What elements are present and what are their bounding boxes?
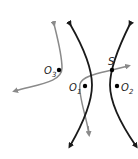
point-o2 <box>115 84 119 88</box>
label-o2: O2 <box>121 82 134 96</box>
gray-curve-arrow-down <box>88 126 89 134</box>
gray-curve-o3 <box>15 24 62 91</box>
diagram-svg: O3 O1 O2 S <box>0 0 138 159</box>
label-o3: O3 <box>44 65 56 79</box>
point-o3 <box>57 68 61 72</box>
point-s <box>110 68 114 72</box>
diagram-canvas: O3 O1 O2 S <box>0 0 138 159</box>
label-s: S <box>108 56 115 67</box>
gray-curve-o1-s <box>80 66 128 134</box>
point-o1 <box>83 84 87 88</box>
